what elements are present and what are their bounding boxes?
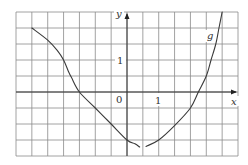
x-tick-label-1: 1 (155, 95, 161, 106)
x-axis-label: x (231, 96, 237, 107)
origin-label: 0 (116, 94, 122, 105)
curve-label-g: g (207, 30, 213, 41)
y-axis-arrow-icon (125, 13, 130, 19)
y-tick-label-1: 1 (117, 55, 123, 66)
axes (16, 13, 237, 156)
x-axis-arrow-icon (231, 90, 237, 95)
graph-of-g: 1 0 1 y x g (0, 0, 248, 165)
y-axis-label: y (115, 8, 122, 19)
